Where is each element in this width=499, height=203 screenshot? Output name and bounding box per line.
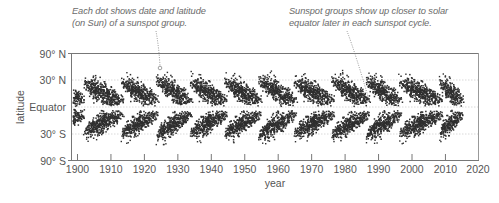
x-label-1930: 1930 [166, 163, 190, 175]
x-axis-ticks [78, 154, 446, 161]
y-label-30n: 30° N [40, 74, 66, 86]
annotation-left: Each dot shows date and latitude (on Sun… [72, 5, 206, 29]
x-axis-labels: 1900191019201930194019501960197019801990… [66, 163, 490, 175]
y-label-90n: 90° N [40, 48, 66, 60]
x-label-1960: 1960 [267, 163, 291, 175]
x-label-1910: 1910 [99, 163, 123, 175]
x-label-2010: 2010 [434, 163, 458, 175]
annotation-right: Sunspot groups show up closer to solar e… [289, 5, 448, 29]
y-axis-labels: 90° N 30° N Equator 30° S 90° S [29, 48, 66, 167]
leader-target-left [158, 66, 162, 70]
x-label-1980: 1980 [333, 163, 357, 175]
x-axis-title: year [265, 177, 286, 189]
x-label-1920: 1920 [133, 163, 157, 175]
annotation-right-line2: equator later in each sunspot cycle. [289, 17, 448, 29]
x-label-2020: 2020 [466, 163, 490, 175]
annotation-leaders [156, 31, 369, 100]
annotation-left-line1: Each dot shows date and latitude [72, 5, 206, 17]
y-axis-title: latitude [14, 90, 26, 124]
x-label-1900: 1900 [66, 163, 90, 175]
x-label-1990: 1990 [367, 163, 391, 175]
annotation-left-line2: (on Sun) of a sunspot group. [72, 17, 206, 29]
x-label-1950: 1950 [233, 163, 257, 175]
x-label-2000: 2000 [400, 163, 424, 175]
x-label-1940: 1940 [200, 163, 224, 175]
butterfly-diagram: 90° N 30° N Equator 30° S 90° S latitude… [0, 0, 499, 203]
y-label-30s: 30° S [40, 128, 66, 140]
sunspot-dots [73, 70, 465, 145]
annotation-right-line1: Sunspot groups show up closer to solar [289, 5, 448, 17]
leader-line-left [156, 31, 160, 66]
y-label-equator: Equator [29, 101, 66, 113]
x-label-1970: 1970 [300, 163, 324, 175]
y-label-90s: 90° S [40, 155, 66, 167]
